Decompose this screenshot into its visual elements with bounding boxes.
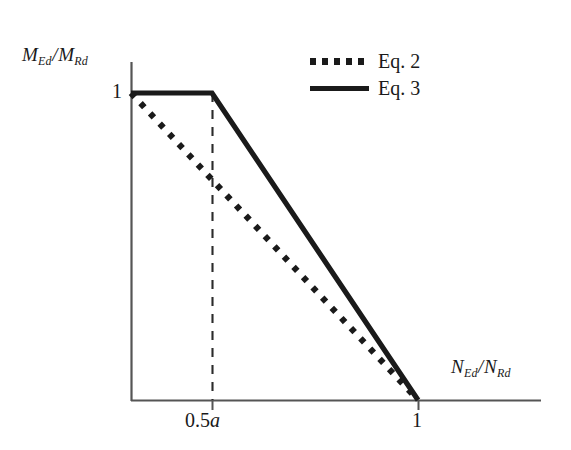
legend-label-eq-3: Eq. 3 [378,77,420,100]
x-axis-label: NEd/NRd [451,356,511,378]
series-line-eq-2 [131,93,418,400]
x-tick-label-half-a: 0.5a [185,409,220,432]
x-tick-label-half-a-number: 0.5 [185,409,210,431]
x-axis-label-denominator-subscript: Rd [497,366,511,380]
y-axis-label-denominator-subscript: Rd [74,54,88,68]
y-axis-label-numerator-subscript: Ed [38,54,52,68]
figure-container: MEd/MRd NEd/NRd 1 0.5a 1 Eq. 2 Eq. 3 [0,0,571,450]
x-axis-label-denominator-symbol: N [484,356,497,377]
x-tick-label-half-a-variable: a [210,409,220,431]
x-tick-label-one: 1 [412,409,422,432]
x-axis-label-numerator-subscript: Ed [464,366,478,380]
y-tick-label-one: 1 [112,80,122,103]
y-axis-label-numerator-symbol: M [22,44,38,65]
y-axis-label-denominator-symbol: M [58,44,74,65]
y-axis-label: MEd/MRd [22,44,88,66]
legend-label-eq-2: Eq. 2 [378,50,420,73]
x-axis-label-numerator-symbol: N [451,356,464,377]
